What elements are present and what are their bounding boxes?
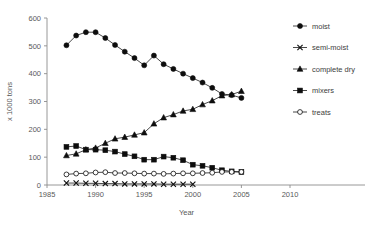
marker-open-circle (113, 171, 118, 176)
x-tick-label: 2000 (184, 190, 201, 199)
marker-filled-triangle (102, 140, 108, 145)
marker-filled-circle (64, 43, 69, 48)
marker-filled-square (161, 154, 166, 159)
x-axis-ticks: 198519901995200020052010 (39, 185, 299, 199)
marker-filled-square (171, 155, 176, 160)
x-axis-title: Year (179, 208, 195, 217)
marker-open-circle (152, 171, 157, 176)
marker-open-circle (229, 170, 234, 175)
marker-open-circle (103, 170, 108, 175)
marker-filled-circle (200, 80, 205, 85)
marker-open-circle (132, 171, 137, 176)
y-tick-label: 0 (37, 181, 41, 190)
marker-filled-square (210, 165, 215, 170)
y-tick-label: 200 (28, 125, 41, 134)
series-mixers (64, 144, 244, 175)
marker-filled-circle (74, 33, 79, 38)
y-tick-label: 500 (28, 42, 41, 51)
marker-filled-circle (161, 62, 166, 67)
legend-label: complete dry (312, 65, 355, 74)
marker-filled-triangle (73, 151, 79, 156)
marker-open-circle (171, 171, 176, 176)
marker-open-circle (161, 171, 166, 176)
marker-open-circle (200, 171, 205, 176)
series-treats (64, 170, 244, 177)
marker-filled-circle (83, 30, 88, 35)
marker-filled-square (190, 162, 195, 167)
x-tick-label: 1995 (136, 190, 153, 199)
marker-open-circle (239, 170, 244, 175)
marker-open-circle (181, 171, 186, 176)
marker-filled-triangle (239, 88, 245, 93)
legend-label: treats (312, 108, 331, 117)
legend-item-semi-moist[interactable]: semi-moist (293, 43, 349, 52)
marker-filled-circle (181, 71, 186, 76)
legend-item-mixers[interactable]: mixers (293, 86, 334, 95)
line-chart-svg: 0100200300400500600198519901995200020052… (0, 0, 379, 231)
x-tick-label: 2005 (233, 190, 250, 199)
series-moist (64, 30, 244, 101)
marker-filled-circle (298, 24, 303, 29)
marker-filled-square (142, 157, 147, 162)
marker-open-circle (298, 110, 303, 115)
marker-open-circle (74, 171, 79, 176)
legend-label: semi-moist (312, 43, 349, 52)
y-tick-label: 400 (28, 69, 41, 78)
marker-filled-square (132, 154, 137, 159)
marker-filled-circle (171, 66, 176, 71)
marker-filled-square (181, 158, 186, 163)
series-line (66, 32, 241, 98)
series-complete-dry (64, 88, 245, 158)
marker-filled-triangle (209, 98, 215, 103)
marker-filled-circle (132, 56, 137, 61)
marker-open-circle (64, 172, 69, 177)
x-tick-label: 1990 (87, 190, 104, 199)
marker-filled-circle (103, 36, 108, 41)
marker-filled-square (113, 149, 118, 154)
marker-open-circle (210, 170, 215, 175)
y-tick-label: 100 (28, 153, 41, 162)
marker-filled-triangle (190, 106, 196, 111)
marker-filled-square (298, 88, 303, 93)
x-tick-label: 1985 (39, 190, 56, 199)
marker-open-circle (122, 171, 127, 176)
marker-filled-circle (122, 49, 127, 54)
y-tick-label: 300 (28, 97, 41, 106)
marker-filled-triangle (151, 121, 157, 126)
marker-filled-square (83, 147, 88, 152)
legend-label: moist (312, 22, 331, 31)
legend: moistsemi-moistcomplete drymixerstreats (293, 22, 355, 117)
legend-label: mixers (312, 86, 334, 95)
chart-figure: 0100200300400500600198519901995200020052… (0, 0, 379, 231)
marker-open-circle (142, 171, 147, 176)
y-axis-ticks: 0100200300400500600 (28, 14, 47, 190)
x-tick-label: 2010 (282, 190, 299, 199)
marker-filled-circle (239, 95, 244, 100)
series-semi-moist (64, 180, 196, 186)
marker-open-circle (93, 170, 98, 175)
marker-filled-square (152, 157, 157, 162)
marker-filled-circle (93, 30, 98, 35)
marker-filled-square (103, 148, 108, 153)
marker-filled-square (93, 147, 98, 152)
y-tick-label: 600 (28, 14, 41, 23)
marker-filled-circle (190, 76, 195, 81)
legend-item-treats[interactable]: treats (293, 108, 331, 117)
marker-open-circle (190, 171, 195, 176)
marker-filled-square (64, 144, 69, 149)
marker-filled-square (74, 144, 79, 149)
legend-item-moist[interactable]: moist (293, 22, 331, 31)
y-axis-title: x 1000 tons (5, 82, 14, 121)
marker-open-circle (83, 171, 88, 176)
marker-open-circle (220, 170, 225, 175)
marker-filled-square (122, 152, 127, 157)
legend-item-complete-dry[interactable]: complete dry (293, 65, 355, 74)
marker-filled-square (200, 163, 205, 168)
marker-filled-circle (210, 85, 215, 90)
marker-filled-circle (142, 63, 147, 68)
marker-filled-circle (151, 53, 156, 58)
marker-filled-circle (113, 42, 118, 47)
